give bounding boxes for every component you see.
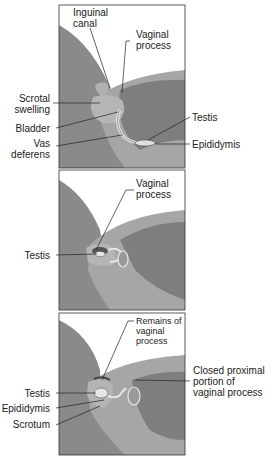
label-testis-3: Testis xyxy=(24,388,50,399)
label-bladder: Bladder xyxy=(16,123,50,134)
label-vaginal-process-1: Vaginal process xyxy=(136,29,171,51)
label-vaginal-process-2: Vaginal process xyxy=(136,178,171,200)
label-epididymis-1: Epididymis xyxy=(192,139,240,150)
label-inguinal-canal: Inguinal canal xyxy=(73,7,108,29)
inguinal-descent-figure: Inguinal canal Vaginal process Scrotal s… xyxy=(0,0,274,461)
label-scrotal-swelling: Scrotal swelling xyxy=(14,93,50,115)
label-testis-1: Testis xyxy=(192,112,218,123)
label-testis-2: Testis xyxy=(24,250,50,261)
label-epididymis-3: Epididymis xyxy=(2,403,50,414)
label-closed-proximal-portion: Closed proximal portion of vaginal proce… xyxy=(193,365,265,398)
label-remains-vaginal-process: Remains of vaginal process xyxy=(136,316,182,346)
label-vas-deferens: Vas deferens xyxy=(11,138,50,160)
label-scrotum: Scrotum xyxy=(13,419,50,430)
